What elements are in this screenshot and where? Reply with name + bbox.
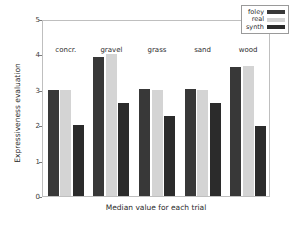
category-label-wood: wood: [239, 46, 258, 54]
bar-group: grass: [139, 21, 175, 196]
bar-foley-concr: [48, 90, 59, 196]
category-label-concr: concr.: [55, 46, 76, 54]
y-tick-mark: [39, 197, 42, 198]
plot-area: concr.gravelgrasssandwood: [42, 20, 270, 197]
bar-synth-gravel: [118, 103, 129, 196]
bar-synth-concr: [73, 125, 84, 196]
bar-real-gravel: [106, 54, 117, 196]
legend-item-real[interactable]: real: [246, 16, 285, 23]
legend-swatch: [267, 25, 285, 29]
x-axis-label: Median value for each trial: [42, 203, 270, 212]
category-label-gravel: gravel: [100, 46, 122, 54]
bar-real-sand: [197, 90, 208, 196]
legend-swatch: [267, 10, 285, 14]
bar-foley-grass: [139, 89, 150, 196]
bar-real-concr: [60, 90, 71, 196]
legend-item-synth[interactable]: synth: [246, 24, 285, 31]
bar-foley-wood: [230, 67, 241, 196]
bar-synth-wood: [255, 126, 266, 196]
legend-swatch: [267, 18, 285, 22]
category-label-sand: sand: [194, 46, 211, 54]
bar-group: concr.: [48, 21, 84, 196]
bar-real-grass: [152, 90, 163, 196]
bar-foley-gravel: [93, 57, 104, 196]
bar-real-wood: [243, 66, 254, 196]
bar-group: sand: [185, 21, 221, 196]
category-label-grass: grass: [148, 46, 167, 54]
bar-synth-sand: [210, 103, 221, 196]
legend[interactable]: foleyrealsynth: [241, 5, 289, 34]
legend-label: real: [252, 16, 264, 23]
bar-synth-grass: [164, 116, 175, 196]
chart-figure: Expressiveness evaluation 012345 concr.g…: [0, 0, 292, 225]
legend-label: synth: [246, 24, 264, 31]
bar-group: wood: [230, 21, 266, 196]
bar-group: gravel: [93, 21, 129, 196]
bar-foley-sand: [185, 89, 196, 196]
